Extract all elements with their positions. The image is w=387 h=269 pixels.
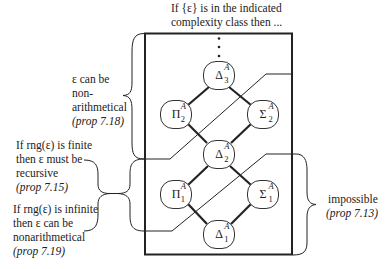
annotation-line: then ε must be [16,153,82,167]
header-line-1: If {ε} is in the indicated [171,2,282,16]
node-symbol: ΔA3 [215,68,223,83]
node-symbol: ΠA1 [172,187,181,202]
annotation-line: impossible [328,193,378,207]
node-symbol: ΣA1 [260,187,267,202]
brace-mid-left [118,159,144,231]
node-delta3: ΔA3 [203,61,235,90]
annotation-ref: (prop 7.19) [13,245,65,259]
annotation-line: arithmetical [72,101,127,115]
node-delta1: ΔA1 [203,220,235,249]
annotation-line: non- [72,87,93,101]
brace-labels [84,160,110,231]
brace-top-left [123,34,144,160]
node-symbol: ΔA1 [215,227,223,242]
node-pi2: ΠA2 [160,100,192,129]
node-delta2: ΔA2 [203,140,235,169]
annotation-line: recursive [16,167,58,181]
annotation-line: If rng(ε) is finite [16,139,92,153]
annotation-ref: (prop 7.18) [72,115,124,129]
node-symbol: ΔA2 [215,147,223,162]
header-line-2: complexity class then ... [171,16,282,30]
node-sigma2: ΣA2 [247,100,279,129]
node-symbol: ΠA2 [172,107,181,122]
annotation-line: ε can be [72,73,109,87]
brace-right [293,154,316,255]
annotation-ref: (prop 7.13) [326,207,378,221]
node-sigma1: ΣA1 [247,180,279,209]
continuation-dots [218,37,221,57]
annotation-line: nonarithmetical [13,231,85,245]
node-pi1: ΠA1 [160,180,192,209]
annotation-line: then ε can be [13,217,73,231]
annotation-line: If rng(ε) is infinite [13,203,98,217]
node-symbol: ΣA2 [260,107,267,122]
annotation-ref: (prop 7.15) [16,181,68,195]
